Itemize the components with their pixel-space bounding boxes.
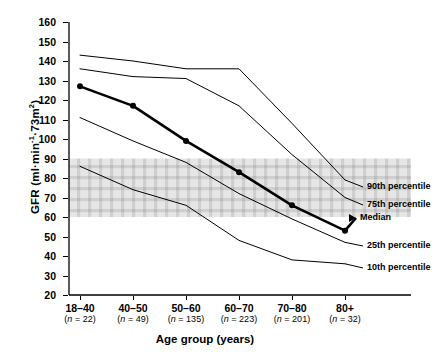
series-marker-median-5 [289,202,295,208]
series-marker-median-1 [77,83,83,89]
series-marker-median-2 [130,103,136,109]
series-marker-median-3 [183,138,189,144]
shaded-band-60-90 [69,159,411,218]
gfr-age-chart: GFR (ml·min-1·73m2) Age group (years) 16… [0,0,435,352]
series-label-10th-percentile: 10th percentile [367,263,431,272]
series-label-median: Median [360,213,391,222]
series-label-90th-percentile: 90th percentile [367,182,431,191]
series-marker-median-4 [236,169,242,175]
plot-area [0,0,435,352]
leader-25th-percentile [345,242,363,246]
leader-10th-percentile [345,264,363,268]
series-label-25th-percentile: 25th percentile [367,241,431,250]
series-label-75th-percentile: 75th percentile [367,200,431,209]
